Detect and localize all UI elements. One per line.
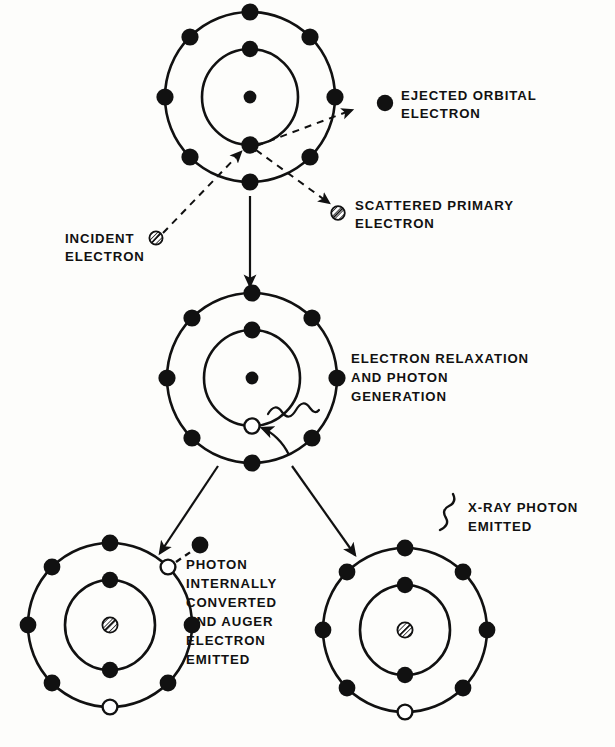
outer-shell-electron — [160, 675, 177, 692]
outer-shell-electron — [479, 622, 496, 639]
outer-shell-electron — [301, 148, 318, 165]
inner-shell-electron — [397, 667, 413, 683]
outer-shell-electron — [44, 675, 61, 692]
outer-shell-electron — [44, 559, 61, 576]
outer-shell-electron — [397, 540, 414, 557]
auger-electron-marker — [192, 537, 209, 554]
outer-shell-vacancy — [398, 705, 413, 720]
outer-shell-vacancy — [103, 700, 118, 715]
atom-interaction-diagram: EJECTED ORBITAL ELECTRON SCATTERED PRIMA… — [0, 0, 615, 747]
outer-shell-electron — [183, 309, 200, 326]
outer-shell-electron — [243, 454, 260, 471]
outer-shell-electron — [102, 535, 119, 552]
outer-shell-electron — [243, 284, 260, 301]
inner-shell-electron — [102, 572, 118, 588]
outer-shell-electron — [326, 88, 343, 105]
outer-shell-electron — [339, 564, 356, 581]
outer-shell-electron — [181, 148, 198, 165]
outer-shell-electron — [303, 429, 320, 446]
outer-shell-electron — [339, 680, 356, 697]
outer-shell-electron — [20, 617, 37, 634]
inner-shell-electron — [397, 577, 413, 593]
outer-shell-electron — [315, 622, 332, 639]
outer-shell-electron — [301, 28, 318, 45]
inner-shell-electron — [102, 662, 118, 678]
nucleus — [244, 91, 257, 104]
outer-shell-electron — [455, 680, 472, 697]
outer-shell-electron — [328, 369, 345, 386]
outer-shell-electron — [241, 3, 258, 20]
outer-shell-electron — [455, 564, 472, 581]
inner-shell-vacancy — [244, 418, 259, 433]
outer-shell-electron — [156, 88, 173, 105]
outer-shell-electron — [181, 28, 198, 45]
outer-shell-vacancy — [161, 560, 176, 575]
outer-shell-electron — [183, 429, 200, 446]
outer-shell-electron — [158, 369, 175, 386]
canvas-background — [0, 0, 615, 747]
outer-shell-electron — [303, 309, 320, 326]
inner-shell-electron — [244, 322, 261, 339]
inner-shell-electron — [242, 41, 258, 57]
diagram-canvas: EJECTED ORBITAL ELECTRON SCATTERED PRIMA… — [0, 0, 615, 747]
nucleus — [246, 372, 259, 385]
outer-shell-electron — [241, 173, 258, 190]
ejected-electron-marker — [377, 95, 393, 111]
